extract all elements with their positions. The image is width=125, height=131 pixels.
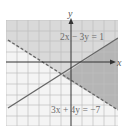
equation-label-dashed: 3x + 4y = −7 [51,105,101,115]
y-axis-label: y [67,8,73,19]
equation-label-solid: 2x − 3y = 1 [60,32,104,42]
inequality-graph: x y 2x − 3y = 1 3x + 4y = −7 [0,0,125,131]
x-axis-label: x [116,57,122,68]
